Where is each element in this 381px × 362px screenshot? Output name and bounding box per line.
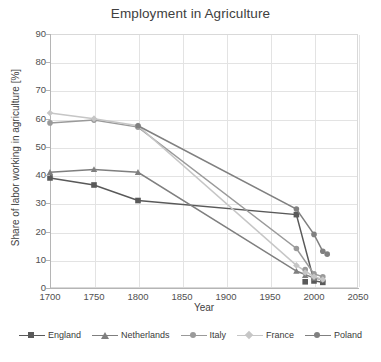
y-tick-label: 60	[0, 113, 46, 124]
extra-data-point	[302, 279, 308, 285]
chart-legend: EnglandNetherlandsItalyFrancePoland	[0, 330, 381, 340]
chart-root: Employment in Agriculture Share of labor…	[0, 0, 381, 362]
data-point-marker	[47, 120, 53, 126]
y-tick-mark	[46, 175, 50, 176]
legend-label: Netherlands	[121, 330, 170, 340]
legend-swatch-circle-icon	[181, 330, 207, 340]
y-tick-mark	[46, 288, 50, 289]
legend-marker	[101, 332, 109, 339]
x-tick-label: 1950	[250, 291, 290, 302]
legend-swatch-circle-icon	[305, 330, 331, 340]
y-tick-mark	[46, 90, 50, 91]
y-tick-label: 70	[0, 84, 46, 95]
legend-marker	[190, 332, 196, 338]
legend-swatch-diamond-icon	[237, 330, 263, 340]
legend-label: Italy	[210, 330, 227, 340]
y-tick-mark	[46, 34, 50, 35]
y-tick-label: 30	[0, 197, 46, 208]
data-point-marker	[135, 123, 141, 129]
y-tick-mark	[46, 147, 50, 148]
series-line	[50, 113, 323, 280]
series-line	[50, 178, 323, 282]
x-gridline	[359, 35, 360, 287]
series-england	[47, 175, 325, 285]
legend-label: Poland	[334, 330, 362, 340]
legend-item-england[interactable]: England	[19, 330, 81, 340]
legend-label: France	[266, 330, 294, 340]
legend-item-italy[interactable]: Italy	[181, 330, 227, 340]
legend-item-france[interactable]: France	[237, 330, 294, 340]
x-tick-label: 1750	[74, 291, 114, 302]
y-tick-mark	[46, 119, 50, 120]
data-point-marker	[293, 268, 299, 274]
legend-label: England	[48, 330, 81, 340]
series-layer	[50, 34, 358, 288]
y-tick-label: 80	[0, 56, 46, 67]
y-tick-label: 50	[0, 141, 46, 152]
y-tick-mark	[46, 232, 50, 233]
y-tick-label: 20	[0, 226, 46, 237]
y-tick-label: 10	[0, 254, 46, 265]
y-tick-label: 40	[0, 169, 46, 180]
legend-item-netherlands[interactable]: Netherlands	[92, 330, 170, 340]
data-point-marker	[91, 182, 97, 188]
legend-item-poland[interactable]: Poland	[305, 330, 362, 340]
y-tick-mark	[46, 260, 50, 261]
series-line	[138, 126, 323, 252]
legend-swatch-triangle-icon	[92, 330, 118, 340]
y-tick-label: 90	[0, 28, 46, 39]
series-france	[47, 110, 326, 283]
y-tick-label: 0	[0, 282, 46, 293]
x-axis-line	[50, 288, 359, 289]
y-tick-mark	[46, 62, 50, 63]
extra-data-point	[324, 251, 330, 257]
chart-title: Employment in Agriculture	[0, 6, 381, 21]
data-point-marker	[311, 232, 317, 238]
x-axis-label: Year	[50, 302, 358, 313]
x-tick-label: 2000	[294, 291, 334, 302]
legend-marker	[28, 332, 34, 338]
x-tick-label: 2050	[338, 291, 378, 302]
legend-marker	[245, 331, 253, 339]
legend-marker	[314, 332, 320, 338]
y-tick-mark	[46, 203, 50, 204]
data-point-marker	[47, 110, 54, 117]
series-line	[50, 169, 323, 279]
x-tick-label: 1800	[118, 291, 158, 302]
data-point-marker	[135, 198, 141, 204]
x-tick-label: 1850	[162, 291, 202, 302]
data-point-marker	[294, 206, 300, 212]
data-point-marker	[294, 246, 300, 252]
x-tick-label: 1900	[206, 291, 246, 302]
legend-swatch-square-icon	[19, 330, 45, 340]
